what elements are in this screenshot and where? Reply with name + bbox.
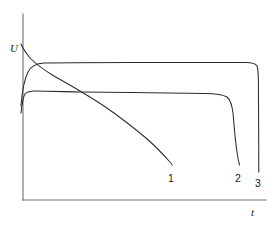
figure-canvas: U t 1 2 3: [0, 0, 280, 228]
curve-label-3: 3: [255, 177, 261, 189]
curve-2-path: [21, 91, 240, 165]
discharge-curve-plot: U t 1 2 3: [0, 0, 280, 228]
curve-label-1: 1: [168, 172, 174, 184]
curve-label-2: 2: [235, 172, 241, 184]
x-axis-label: t: [251, 206, 255, 218]
curve-3-path: [21, 63, 259, 173]
y-axis-label: U: [10, 42, 19, 54]
